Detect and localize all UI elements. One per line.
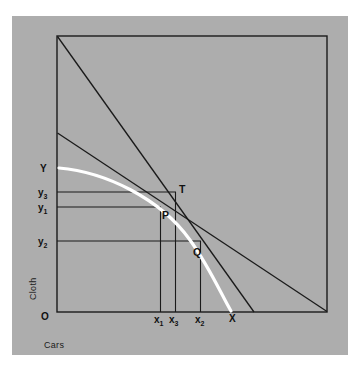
x-tick-x2: x2 xyxy=(195,314,205,327)
point-label-q: Q xyxy=(193,246,201,258)
y-tick-y2: y2 xyxy=(38,236,48,249)
point-label-p: P xyxy=(162,209,169,221)
x-axis-title: Cars xyxy=(44,340,64,350)
y-axis-title: Cloth xyxy=(28,277,38,300)
x-intercept-label: X xyxy=(229,313,236,324)
x-tick-x1: x1 xyxy=(154,314,164,327)
y-tick-y1: y1 xyxy=(38,202,48,215)
price-line-flat xyxy=(58,133,328,312)
origin-label: O xyxy=(41,311,49,322)
x-tick-x3: x3 xyxy=(169,314,179,327)
plot-frame xyxy=(57,36,327,312)
y-intercept-label: Y xyxy=(40,163,47,174)
figure-container: Cloth Cars O Y X y3 y1 y2 x1 x3 x2 P Q T xyxy=(0,0,360,380)
diagram-svg: Cloth Cars O Y X y3 y1 y2 x1 x3 x2 P Q T xyxy=(0,0,360,380)
y-tick-y3: y3 xyxy=(38,187,48,200)
point-label-t: T xyxy=(179,183,186,195)
ppf-curve xyxy=(59,168,231,311)
